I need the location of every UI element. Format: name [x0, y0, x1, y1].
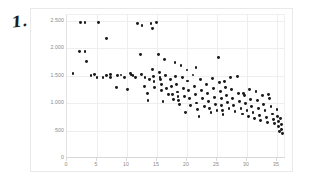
y-axis-labels: 05001.0001.5002.0002.500: [32, 14, 64, 157]
scatter-point: [225, 94, 228, 97]
scatter-point: [181, 76, 184, 79]
scatter-point: [268, 97, 271, 100]
x-axis-tick: [156, 158, 157, 161]
scatter-point: [216, 109, 219, 112]
scatter-point: [214, 103, 217, 106]
x-axis-tick: [126, 158, 127, 161]
scatter-point: [271, 113, 274, 116]
scatter-point: [230, 88, 233, 91]
gridline-vertical: [127, 15, 128, 157]
y-axis-tick-label: 0: [34, 154, 64, 160]
scatter-point: [163, 58, 166, 61]
scatter-point: [183, 95, 186, 98]
scatter-point: [234, 110, 237, 113]
scatter-point: [171, 93, 174, 96]
scatter-point: [224, 86, 227, 89]
scatter-point: [199, 78, 202, 81]
scatter-point: [266, 121, 269, 124]
scatter-point: [139, 53, 142, 56]
scatter-point: [193, 85, 196, 88]
scatter-point: [270, 105, 273, 108]
y-axis-tick-label: 2.500: [34, 17, 64, 23]
scatter-point: [167, 93, 170, 96]
x-axis-tick: [66, 158, 67, 161]
scatter-point: [105, 74, 108, 77]
scatter-point: [198, 115, 201, 118]
scatter-point: [140, 73, 143, 76]
scatter-point: [252, 111, 255, 114]
scatter-point: [153, 80, 156, 83]
y-axis-tick-label: 1.000: [34, 99, 64, 105]
scatter-point: [212, 87, 215, 90]
x-axis-labels: 05101520253035: [66, 161, 285, 169]
x-axis-tick-label: 0: [58, 161, 74, 168]
gridline-vertical: [97, 15, 98, 157]
scatter-point: [219, 90, 222, 93]
scatter-point: [143, 85, 146, 88]
scatter-point: [189, 104, 192, 107]
scatter-point: [262, 103, 265, 106]
scatter-point: [180, 64, 183, 67]
scatter-point: [242, 92, 245, 95]
scatter-point: [213, 96, 216, 99]
scatter-point: [200, 89, 203, 92]
scatter-point: [177, 99, 180, 102]
scatter-point: [169, 78, 172, 81]
scatter-point: [257, 107, 260, 110]
scatter-point: [246, 109, 249, 112]
scatter-point: [243, 94, 246, 97]
scatter-point: [170, 85, 173, 88]
scatter-point: [157, 53, 160, 56]
scatter-point: [217, 56, 220, 59]
x-axis-tick: [246, 158, 247, 161]
scatter-point: [250, 105, 253, 108]
scatter-point: [153, 86, 156, 89]
scatter-point: [177, 95, 180, 98]
scatter-point: [218, 81, 221, 84]
gridline-vertical: [247, 15, 248, 157]
scatter-point: [134, 76, 137, 79]
scatter-point: [174, 75, 177, 78]
scatter-point: [85, 60, 88, 63]
scatter-point: [141, 24, 144, 27]
x-axis-tick: [96, 158, 97, 161]
scatter-point: [240, 107, 243, 110]
y-axis-tick-label: 500: [34, 127, 64, 133]
scatter-point: [280, 123, 283, 126]
scatter-point: [164, 74, 167, 77]
plot-area: [66, 14, 285, 157]
scatter-point: [228, 107, 231, 110]
scatter-point: [126, 88, 129, 91]
gridline-horizontal: [67, 103, 284, 104]
scatter-point: [188, 97, 191, 100]
x-axis-tick: [186, 158, 187, 161]
scatter-point: [237, 92, 240, 95]
scatter-point: [247, 115, 250, 118]
y-axis-tick-label: 2.000: [34, 44, 64, 50]
scatter-point: [79, 21, 82, 24]
gridline-vertical: [157, 15, 158, 157]
scatter-point: [151, 68, 154, 71]
x-axis-tick-label: 10: [118, 161, 134, 168]
scatter-point: [155, 21, 158, 24]
scatter-point: [272, 118, 275, 121]
scatter-point: [109, 76, 112, 79]
scatter-point: [144, 76, 147, 79]
scatter-point: [151, 27, 154, 30]
x-axis-tick-label: 25: [208, 161, 224, 168]
scatter-point: [259, 119, 262, 122]
gridline-horizontal: [67, 131, 284, 132]
x-axis-tick-label: 20: [178, 161, 194, 168]
scatter-point: [229, 76, 232, 79]
x-axis-tick-label: 30: [238, 161, 254, 168]
scatter-point: [105, 37, 108, 40]
scatter-point: [208, 107, 211, 110]
x-axis-tick-label: 15: [148, 161, 164, 168]
scatter-point: [277, 120, 280, 123]
scatter-point: [148, 78, 151, 81]
scatter-point: [232, 104, 235, 107]
scatter-point: [241, 113, 244, 116]
scatter-point: [210, 111, 213, 114]
scatter-point: [123, 76, 126, 79]
scatter-point: [236, 75, 239, 78]
